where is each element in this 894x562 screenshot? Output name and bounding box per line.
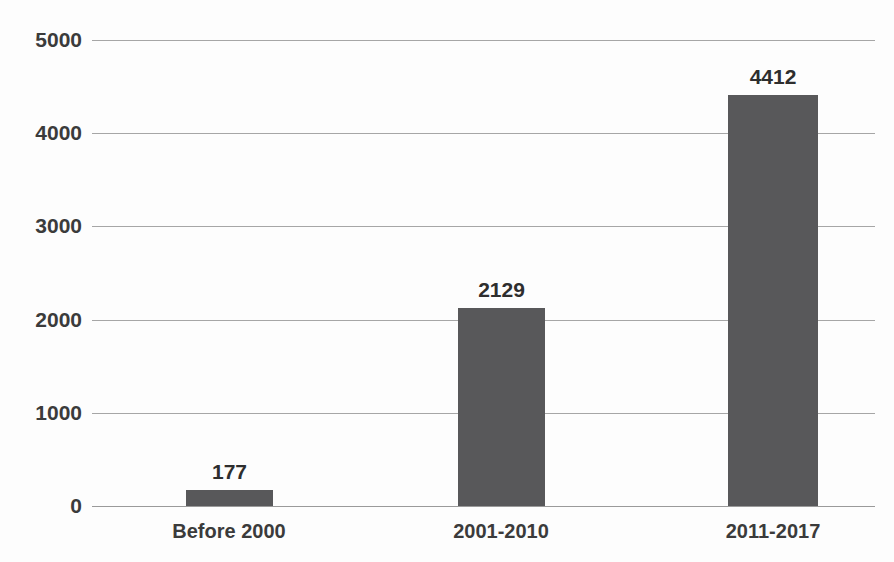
x-tick-label-before-2000: Before 2000 xyxy=(172,520,285,543)
bar-1[interactable] xyxy=(458,308,545,506)
x-tick-label-2001-2010: 2001-2010 xyxy=(453,520,549,543)
x-axis-labels: Before 2000 2001-2010 2011-2017 xyxy=(92,520,875,550)
y-tick-label-0: 0 xyxy=(70,494,82,518)
bar-group-1: 2129 xyxy=(458,40,545,506)
bar-2[interactable] xyxy=(728,95,818,506)
bar-0[interactable] xyxy=(186,490,273,506)
bar-chart: 5000 4000 3000 2000 1000 0 177 xyxy=(0,0,894,562)
bar-value-label-2: 4412 xyxy=(750,65,797,89)
y-tick-label-4000: 4000 xyxy=(35,121,82,145)
x-tick-label-2011-2017: 2011-2017 xyxy=(726,520,821,543)
plot-area: 5000 4000 3000 2000 1000 0 177 xyxy=(92,40,875,506)
bars-layer: 177 2129 4412 xyxy=(92,40,875,506)
y-tick-label-2000: 2000 xyxy=(35,308,82,332)
bar-value-label-0: 177 xyxy=(212,460,247,484)
y-tick-label-5000: 5000 xyxy=(35,28,82,52)
y-tick-label-3000: 3000 xyxy=(35,214,82,238)
y-tick-label-1000: 1000 xyxy=(35,401,82,425)
bar-group-2: 4412 xyxy=(728,40,818,506)
gridline-0-baseline: 0 xyxy=(92,506,875,507)
bar-value-label-1: 2129 xyxy=(478,278,525,302)
bar-group-0: 177 xyxy=(186,40,273,506)
